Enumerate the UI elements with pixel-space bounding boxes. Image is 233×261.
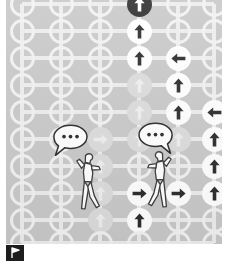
arrow-up-icon — [202, 154, 223, 179]
node-c1-r2-empty[interactable] — [49, 46, 74, 71]
node-c3-r2-up[interactable] — [127, 46, 152, 71]
speech-bubble-left: ... — [50, 124, 90, 158]
speech-bubble-shape — [50, 124, 90, 158]
arrow-up-icon — [127, 208, 152, 233]
node-c0-r7-empty[interactable] — [10, 181, 35, 206]
arrow-up-icon — [127, 19, 152, 44]
scene-canvas: ...... Grid of directional arrow nodes w… — [0, 0, 233, 261]
node-c4-r8-empty[interactable] — [166, 208, 191, 233]
arrow-up-icon — [202, 127, 223, 152]
node-c2-r1-empty[interactable] — [88, 19, 113, 44]
node-c0-r9-empty[interactable] — [10, 231, 35, 245]
node-c5-r9-empty[interactable] — [202, 231, 223, 245]
arrow-up-icon — [127, 0, 152, 17]
arrow-left-icon — [166, 46, 191, 71]
node-c0-r3-empty[interactable] — [10, 73, 35, 98]
node-c2-r8-up-faded[interactable] — [88, 208, 113, 233]
node-c4-r0-empty[interactable] — [166, 0, 191, 17]
node-c0-r6-empty[interactable] — [10, 154, 35, 179]
node-c3-r3-up-faded[interactable] — [127, 73, 152, 98]
node-c5-r1-empty[interactable] — [202, 19, 223, 44]
arrow-up-icon — [127, 46, 152, 71]
node-c3-r8-up[interactable] — [127, 208, 152, 233]
grid-panel: ...... — [6, 0, 222, 244]
figure-left[interactable]: ... — [62, 140, 118, 210]
node-c1-r1-empty[interactable] — [49, 19, 74, 44]
node-c2-r3-empty[interactable] — [88, 73, 113, 98]
node-c2-r4-empty[interactable] — [88, 100, 113, 125]
node-c5-r0-empty[interactable] — [202, 0, 223, 17]
node-c2-r9-empty[interactable] — [88, 231, 113, 245]
node-c5-r4-left[interactable] — [202, 100, 223, 125]
node-c3-r4-up-faded[interactable] — [127, 100, 152, 125]
node-c2-r2-empty[interactable] — [88, 46, 113, 71]
node-c0-r5-empty[interactable] — [10, 127, 35, 152]
node-c1-r4-empty[interactable] — [49, 100, 74, 125]
speech-bubble-shape — [136, 122, 176, 156]
speech-bubble-right: ... — [136, 122, 176, 156]
node-c4-r2-left[interactable] — [166, 46, 191, 71]
figure-right[interactable]: ... — [130, 138, 186, 208]
node-c5-r7-up[interactable] — [202, 181, 223, 206]
arrow-up-icon — [127, 100, 152, 125]
arrow-up-icon — [88, 208, 113, 233]
node-c2-r0-empty[interactable] — [88, 0, 113, 17]
node-c3-r1-up[interactable] — [127, 19, 152, 44]
node-c4-r9-empty[interactable] — [166, 231, 191, 245]
arrow-left-icon — [202, 100, 223, 125]
node-c4-r4-up[interactable] — [166, 100, 191, 125]
node-c3-r0-up-selected[interactable] — [127, 0, 152, 17]
node-c4-r3-up[interactable] — [166, 73, 191, 98]
node-c0-r0-empty[interactable] — [10, 0, 35, 17]
node-c4-r1-empty[interactable] — [166, 19, 191, 44]
node-c5-r2-empty[interactable] — [202, 46, 223, 71]
arrow-up-icon — [166, 100, 191, 125]
node-c5-r8-empty[interactable] — [202, 208, 223, 233]
node-c1-r9-empty[interactable] — [49, 231, 74, 245]
arrow-up-icon — [166, 73, 191, 98]
arrow-up-icon — [127, 73, 152, 98]
node-c0-r4-empty[interactable] — [10, 100, 35, 125]
node-c0-r2-empty[interactable] — [10, 46, 35, 71]
node-c1-r8-empty[interactable] — [49, 208, 74, 233]
node-c0-r8-empty[interactable] — [10, 208, 35, 233]
node-c5-r3-empty[interactable] — [202, 73, 223, 98]
node-c1-r3-empty[interactable] — [49, 73, 74, 98]
corner-badge[interactable] — [6, 245, 24, 261]
node-c3-r9-empty[interactable] — [127, 231, 152, 245]
node-c0-r1-empty[interactable] — [10, 19, 35, 44]
flag-icon — [6, 245, 24, 261]
node-c5-r6-up[interactable] — [202, 154, 223, 179]
arrow-up-icon — [202, 181, 223, 206]
node-c1-r0-empty[interactable] — [49, 0, 74, 17]
node-c5-r5-up[interactable] — [202, 127, 223, 152]
